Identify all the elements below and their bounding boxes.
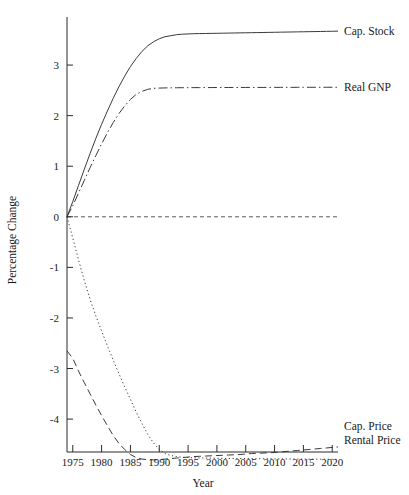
series-label-group: Cap. StockReal GNPCap. PriceRental Price xyxy=(344,25,401,446)
x-tick-label: 1995 xyxy=(177,456,200,468)
x-tick-label: 1980 xyxy=(91,456,114,468)
x-tick-group: 1975198019851990199520002005201020152020 xyxy=(62,445,344,468)
series-label-cap-stock: Cap. Stock xyxy=(344,25,395,38)
series-line-real-gnp xyxy=(67,87,338,217)
y-axis-title: Percentage Change xyxy=(6,196,19,284)
series-label-real-gnp: Real GNP xyxy=(344,81,391,93)
y-tick-group: 3210-1-2-3-4 xyxy=(50,59,73,425)
series-label-cap-price: Cap. Price xyxy=(344,420,392,433)
y-tick-label: 2 xyxy=(54,110,60,122)
series-line-cap-stock xyxy=(67,31,338,217)
x-tick-label: 1990 xyxy=(148,456,171,468)
series-line-rental-price xyxy=(67,351,338,460)
x-tick-label: 1985 xyxy=(119,456,142,468)
y-tick-label: 0 xyxy=(54,211,60,223)
x-tick-label: 1975 xyxy=(62,456,85,468)
y-tick-label: -2 xyxy=(50,312,59,324)
x-tick-label: 2010 xyxy=(264,456,287,468)
x-tick-label: 2005 xyxy=(235,456,258,468)
y-tick-label: 3 xyxy=(54,59,60,71)
y-tick-label: -1 xyxy=(50,261,59,273)
x-tick-label: 2000 xyxy=(206,456,229,468)
x-axis-title: Year xyxy=(192,477,213,489)
x-tick-label: 2015 xyxy=(292,456,315,468)
x-tick-label: 2020 xyxy=(321,456,344,468)
axes-layer xyxy=(67,17,338,452)
series-label-rental-price: Rental Price xyxy=(344,434,401,446)
y-tick-label: -3 xyxy=(50,363,60,375)
chart-figure: 3210-1-2-3-4 197519801985199019952000200… xyxy=(0,0,409,495)
y-tick-label: -4 xyxy=(50,413,60,425)
line-chart-canvas: 3210-1-2-3-4 197519801985199019952000200… xyxy=(0,0,409,495)
series-curves-layer xyxy=(67,31,338,460)
series-line-cap-price xyxy=(67,217,338,460)
y-tick-label: 1 xyxy=(54,160,60,172)
